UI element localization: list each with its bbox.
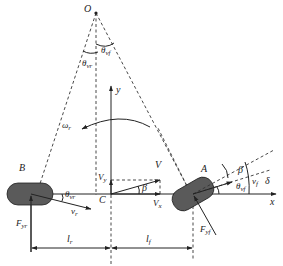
label-omega-r: ωr — [62, 120, 71, 132]
vehicle-model-diagram: O θvf θvr y x ωr V Vy Vx β C B θvr vr Fy… — [0, 0, 283, 266]
label-Vy: Vy — [98, 172, 108, 184]
label-Fyf: Fyf — [199, 224, 212, 236]
label-C: C — [99, 194, 106, 205]
label-O: O — [84, 3, 91, 14]
rear-wheel-B — [7, 183, 53, 205]
label-x-axis: x — [269, 196, 275, 207]
label-theta-vr-B: θvr — [65, 189, 76, 201]
label-theta-vf: θvf — [101, 45, 112, 57]
label-Fyr: Fyr — [15, 218, 28, 230]
label-V: V — [155, 159, 163, 170]
arc-beta-C — [138, 186, 139, 194]
label-beta-A: β — [237, 164, 243, 175]
label-A: A — [200, 163, 208, 174]
velocity-vector-V — [111, 180, 160, 194]
arc-theta-vr-B — [62, 194, 63, 201]
label-vr: vr — [71, 206, 78, 218]
label-theta-vr: θvr — [82, 58, 93, 70]
yaw-rate-arc — [82, 119, 150, 129]
label-Vx: Vx — [153, 198, 163, 210]
label-y-axis: y — [115, 84, 121, 95]
label-vf: vf — [252, 176, 259, 188]
label-lf: lf — [146, 233, 152, 246]
label-theta-vf-A: θvf — [236, 181, 247, 193]
arc-theta-vf-A — [217, 187, 219, 194]
label-delta: δ — [265, 175, 270, 186]
label-lr: lr — [67, 233, 73, 246]
line-O-to-B — [33, 13, 96, 205]
center-point-O — [94, 11, 97, 14]
label-B: B — [19, 162, 25, 173]
label-beta-C: β — [141, 182, 147, 193]
line-O-to-A — [96, 13, 189, 190]
